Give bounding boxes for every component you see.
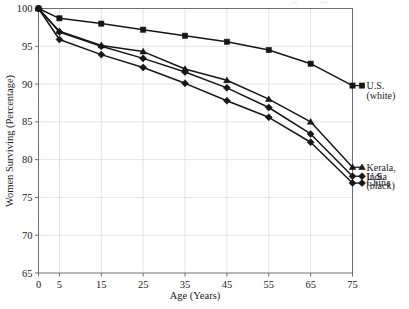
data-point-marker: [98, 51, 105, 58]
survival-line-chart: 65707580859095100 0515253545556575 U.S.(…: [0, 0, 409, 309]
legend-item-china[interactable]: China: [353, 177, 391, 188]
data-point-marker: [182, 33, 187, 38]
axes: [39, 8, 353, 273]
legend-item-u-s-white[interactable]: U.S.(white): [353, 80, 396, 102]
x-tick-labels: 0515253545556575: [36, 279, 358, 290]
x-tick-label: 15: [96, 279, 107, 290]
top-artifact-left: [291, 1, 298, 4]
series-path: [39, 9, 353, 184]
y-tick-label: 75: [22, 192, 33, 203]
y-tick-labels: 65707580859095100: [17, 3, 33, 279]
data-point-marker: [99, 21, 104, 26]
series-u-s-black: [35, 5, 356, 180]
data-point-marker: [141, 27, 146, 32]
legend-label: (white): [367, 90, 396, 102]
data-point-marker: [223, 97, 230, 104]
x-tick-label: 65: [305, 279, 316, 290]
series-path: [39, 9, 353, 177]
data-point-marker: [265, 114, 272, 121]
chart-canvas: 65707580859095100 0515253545556575 U.S.(…: [0, 0, 409, 309]
legend-marker: [359, 83, 364, 88]
y-tick-label: 80: [22, 154, 33, 165]
tick-marks: [35, 9, 353, 277]
x-tick-label: 55: [264, 279, 275, 290]
x-tick-label: 35: [180, 279, 191, 290]
y-tick-label: 65: [22, 268, 33, 279]
legend-marker: [358, 180, 365, 187]
data-point-marker: [182, 80, 189, 87]
data-point-marker: [266, 47, 271, 52]
x-tick-label: 0: [36, 279, 41, 290]
data-point-marker: [140, 64, 147, 71]
x-tick-label: 75: [347, 279, 358, 290]
data-point-marker: [224, 39, 229, 44]
y-tick-label: 100: [17, 3, 33, 14]
data-point-marker: [223, 84, 230, 91]
chart-legend: U.S.(white)Kerala,IndiaU.S.(black)China: [353, 80, 396, 192]
data-point-marker: [308, 61, 313, 66]
series-path: [39, 9, 353, 86]
y-tick-label: 70: [22, 230, 33, 241]
y-tick-label: 90: [22, 79, 33, 90]
legend-marker: [358, 173, 365, 180]
x-tick-label: 45: [222, 279, 233, 290]
y-tick-label: 95: [22, 41, 33, 52]
y-axis-title: Women Surviving (Percentage): [4, 74, 16, 207]
data-point-marker: [98, 43, 105, 50]
legend-label: China: [367, 177, 391, 188]
top-artifact-right: [320, 1, 328, 4]
data-point-marker: [140, 55, 147, 62]
x-tick-label: 25: [138, 279, 149, 290]
x-tick-label: 5: [57, 279, 62, 290]
data-point-marker: [57, 16, 62, 21]
y-tick-label: 85: [22, 116, 33, 127]
data-point-marker: [265, 104, 272, 111]
x-axis-title: Age (Years): [170, 290, 221, 302]
